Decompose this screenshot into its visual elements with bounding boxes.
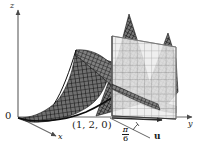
u-direction-ray <box>110 118 150 138</box>
y-axis-label: y <box>188 120 193 128</box>
angle-denominator: 6 <box>122 135 129 143</box>
angle-fraction-label: π 6 <box>122 126 129 144</box>
point-label: (1, 2, 0) <box>72 120 112 130</box>
u-vector-label: u <box>154 132 161 141</box>
vertical-cutting-plane <box>112 36 176 119</box>
figure-canvas: z x y 0 (1, 2, 0) u π 6 <box>0 0 202 162</box>
angle-arc <box>133 124 138 130</box>
origin-label: 0 <box>5 111 11 121</box>
x-axis-label: x <box>58 133 63 141</box>
plane-face <box>112 36 176 119</box>
angle-numerator: π <box>122 126 129 134</box>
z-axis-label: z <box>10 2 14 10</box>
surface-plot-svg <box>0 0 202 162</box>
